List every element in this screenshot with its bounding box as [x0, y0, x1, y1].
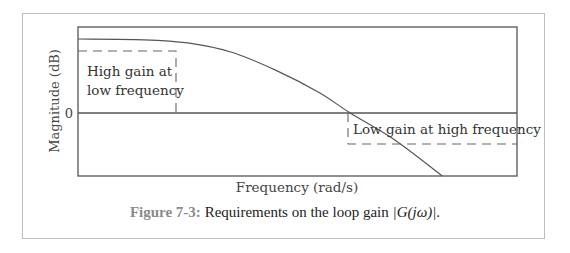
- y-zero-tick-label: 0: [65, 106, 73, 121]
- caption-text: Requirements on the loop gain: [201, 204, 393, 220]
- y-axis-label: Magnitude (dB): [47, 49, 62, 153]
- figure-caption: Figure 7-3: Requirements on the loop gai…: [0, 204, 570, 221]
- plot-area: [78, 27, 517, 176]
- annotation-high-gain-line2: low frequency: [87, 82, 184, 98]
- caption-end: .: [436, 204, 440, 220]
- caption-math: |G(jω)|: [393, 204, 437, 220]
- x-axis-label: Frequency (rad/s): [236, 179, 358, 195]
- annotation-high-gain-line1: High gain at: [87, 63, 173, 79]
- figure-number: Figure 7-3:: [130, 204, 201, 220]
- loop-gain-curve: [78, 39, 442, 176]
- annotation-low-gain: Low gain at high frequency: [353, 121, 541, 137]
